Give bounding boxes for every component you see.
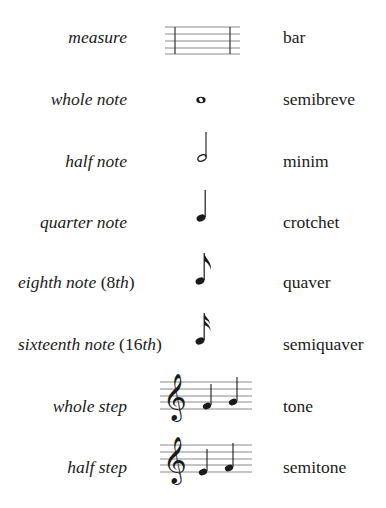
whole-step-staff-icon: 𝄞 (160, 373, 252, 422)
half-note-icon (197, 132, 208, 163)
treble-clef-icon: 𝄞 (163, 373, 187, 422)
treble-clef-icon: 𝄞 (163, 436, 187, 485)
music-symbols: 𝄞 𝄞 (0, 0, 386, 508)
half-step-staff-icon: 𝄞 (160, 436, 252, 485)
sixteenth-note-icon (194, 313, 210, 346)
whole-note-icon (196, 97, 205, 103)
eighth-note-icon (194, 253, 211, 286)
quarter-note-icon (195, 190, 206, 223)
measure-staff-icon (165, 27, 240, 54)
